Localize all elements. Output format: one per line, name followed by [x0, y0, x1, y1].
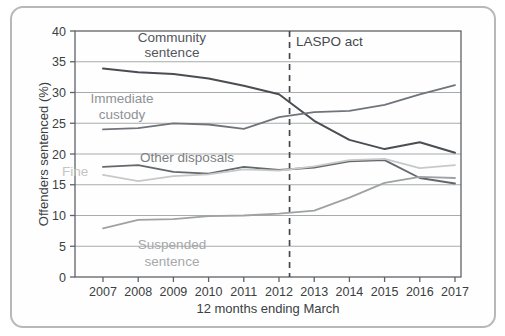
y-tick-label-0: 0	[59, 271, 66, 285]
y-tick-label-30: 30	[52, 86, 66, 100]
x-tick-label-2007: 2007	[89, 285, 117, 299]
series-label-suspended-sentence: Suspendedsentence	[138, 237, 206, 269]
series-label-fine: Fine	[62, 164, 88, 179]
y-tick-label-15: 15	[52, 178, 66, 192]
x-tick-label-2008: 2008	[124, 285, 152, 299]
x-tick-label-2015: 2015	[371, 285, 399, 299]
x-tick-label-2011: 2011	[230, 285, 257, 299]
y-tick-label-35: 35	[52, 55, 66, 69]
series-label-other-disposals: Other disposals	[140, 150, 234, 165]
y-tick-label-25: 25	[52, 117, 66, 131]
x-tick-label-2016: 2016	[406, 285, 434, 299]
x-tick-label-2012: 2012	[265, 285, 293, 299]
series-label-immediate-custody: Immediatecustody	[90, 91, 153, 122]
x-tick-label-2017: 2017	[441, 285, 469, 299]
series-line-community-sentence	[103, 69, 455, 153]
laspo-act-label: LASPO act	[296, 34, 363, 49]
y-tick-label-40: 40	[52, 25, 66, 39]
x-tick-label-2013: 2013	[300, 285, 328, 299]
x-tick-label-2010: 2010	[195, 285, 223, 299]
figure-screenshot: 0510152025303540200720082009201020112012…	[0, 0, 505, 336]
x-axis-title: 12 months ending March	[196, 301, 339, 316]
y-tick-label-20: 20	[52, 148, 66, 162]
x-tick-label-2014: 2014	[335, 285, 363, 299]
y-tick-label-5: 5	[59, 240, 66, 254]
series-label-community-sentence: Communitysentence	[138, 30, 207, 60]
y-axis-title: Offenders sentenced (%)	[36, 82, 51, 226]
y-tick-label-10: 10	[52, 209, 66, 223]
x-tick-label-2009: 2009	[159, 285, 187, 299]
line-chart: 0510152025303540200720082009201020112012…	[0, 0, 505, 336]
